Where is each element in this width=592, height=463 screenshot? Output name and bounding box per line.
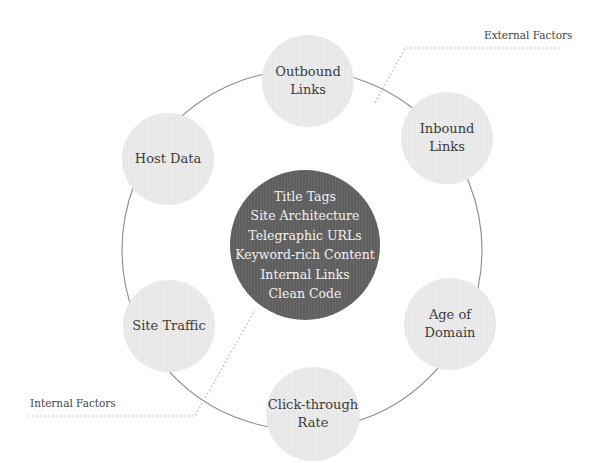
core-item: Site Architecture [251,206,360,226]
node-label: Click-through Rate [268,396,358,432]
node-host-data: Host Data [122,113,214,205]
core-item: Internal Links [260,265,349,285]
external-factors-leader [375,48,432,103]
node-label: Inbound Links [420,120,475,156]
core-item: Keyword-rich Content [235,245,375,265]
core-circle: Title Tags Site Architecture Telegraphic… [226,166,384,324]
node-label: Host Data [135,150,201,168]
core-item: Clean Code [269,284,342,304]
node-outbound-links: Outbound Links [262,35,354,127]
core-item: Title Tags [274,187,336,207]
internal-factors-list: Title Tags Site Architecture Telegraphic… [230,170,380,320]
node-label: Site Traffic [132,317,205,335]
node-age-of-domain: Age of Domain [404,278,496,370]
node-site-traffic: Site Traffic [123,280,215,372]
node-click-through-rate: Click-through Rate [266,367,360,461]
core-item: Telegraphic URLs [248,226,361,246]
node-inbound-links: Inbound Links [401,92,493,184]
external-factors-label: External Factors [484,29,572,41]
node-label: Outbound Links [275,63,340,99]
node-label: Age of Domain [425,306,476,342]
internal-factors-label: Internal Factors [30,397,116,409]
